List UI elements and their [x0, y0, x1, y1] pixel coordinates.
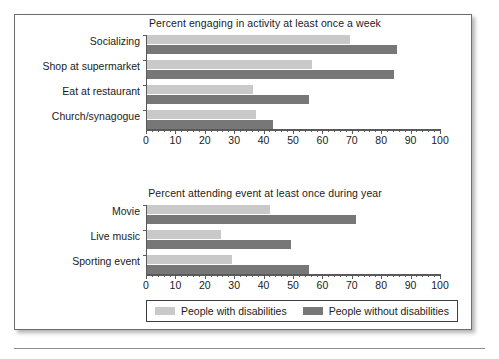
x-tick-label: 100: [431, 134, 449, 146]
y-axis-category-label: Socializing: [90, 35, 140, 47]
bar-group: Movie: [147, 205, 441, 224]
bar-with-disabilities: [147, 35, 350, 44]
y-tick-mark: [143, 110, 147, 111]
x-tick-label: 40: [258, 279, 270, 291]
x-tick-label: 30: [228, 279, 240, 291]
y-axis-category-label: Sporting event: [72, 255, 140, 267]
bar-with-disabilities: [147, 230, 221, 239]
y-axis-category-label: Shop at supermarket: [43, 60, 140, 72]
page-bottom-rule: [14, 348, 485, 349]
bar-with-disabilities: [147, 110, 256, 119]
y-tick-mark: [143, 60, 147, 61]
bar-group: Eat at restaurant: [147, 85, 441, 104]
y-axis-category-label: Church/synagogue: [52, 110, 140, 122]
x-tick-label: 80: [375, 279, 387, 291]
x-tick-label: 70: [346, 134, 358, 146]
y-axis-category-label: Live music: [90, 230, 140, 242]
figure-frame: Percent engaging in activity at least on…: [14, 14, 472, 330]
x-tick-label: 100: [431, 279, 449, 291]
bar-without-disabilities: [147, 95, 309, 104]
x-tick-label: 80: [375, 134, 387, 146]
legend-swatch: [303, 307, 323, 315]
plot-area-bottom: MovieLive musicSporting event: [146, 205, 441, 274]
x-tick-label: 50: [287, 279, 299, 291]
x-tick-label: 90: [405, 134, 417, 146]
bar-with-disabilities: [147, 85, 253, 94]
bar-group: Shop at supermarket: [147, 60, 441, 79]
x-tick-label: 50: [287, 134, 299, 146]
x-tick-label: 20: [199, 279, 211, 291]
chart-legend: People with disabilitiesPeople without d…: [146, 300, 458, 322]
chart-panel-top: Percent engaging in activity at least on…: [15, 17, 473, 165]
y-tick-mark: [143, 35, 147, 36]
chart-panel-bottom: Percent attending event at least once du…: [15, 187, 473, 291]
x-tick-labels-top: 0102030405060708090100: [146, 131, 440, 147]
bar-without-disabilities: [147, 215, 356, 224]
bar-without-disabilities: [147, 240, 291, 249]
plot-area-top: SocializingShop at supermarketEat at res…: [146, 35, 441, 129]
bar-group: Socializing: [147, 35, 441, 54]
y-tick-mark: [143, 255, 147, 256]
y-tick-mark: [143, 85, 147, 86]
x-tick-label: 10: [170, 279, 182, 291]
bar-with-disabilities: [147, 255, 232, 264]
chart-title-top: Percent engaging in activity at least on…: [15, 17, 473, 29]
bar-without-disabilities: [147, 45, 397, 54]
legend-swatch: [155, 307, 175, 315]
bar-without-disabilities: [147, 265, 309, 274]
legend-item: People with disabilities: [155, 305, 287, 317]
bar-with-disabilities: [147, 60, 312, 69]
bar-group: Live music: [147, 230, 441, 249]
x-tick-label: 70: [346, 279, 358, 291]
y-tick-mark: [143, 230, 147, 231]
legend-item: People without disabilities: [303, 305, 449, 317]
chart-title-bottom: Percent attending event at least once du…: [15, 187, 473, 199]
y-axis-category-label: Movie: [112, 205, 140, 217]
x-tick-labels-bottom: 0102030405060708090100: [146, 276, 440, 292]
legend-label: People with disabilities: [181, 305, 287, 317]
x-tick-label: 30: [228, 134, 240, 146]
plot-top: SocializingShop at supermarketEat at res…: [146, 35, 441, 147]
legend-label: People without disabilities: [329, 305, 449, 317]
bar-group: Sporting event: [147, 255, 441, 274]
x-tick-label: 90: [405, 279, 417, 291]
y-axis-category-label: Eat at restaurant: [62, 85, 140, 97]
x-tick-label: 0: [143, 279, 149, 291]
x-tick-label: 60: [317, 279, 329, 291]
x-tick-label: 40: [258, 134, 270, 146]
plot-bottom: MovieLive musicSporting event 0102030405…: [146, 205, 441, 292]
x-tick-label: 10: [170, 134, 182, 146]
x-tick-label: 60: [317, 134, 329, 146]
bar-without-disabilities: [147, 120, 273, 129]
x-tick-label: 0: [143, 134, 149, 146]
bar-with-disabilities: [147, 205, 270, 214]
y-tick-mark: [143, 205, 147, 206]
bar-group: Church/synagogue: [147, 110, 441, 129]
bar-without-disabilities: [147, 70, 394, 79]
x-tick-label: 20: [199, 134, 211, 146]
